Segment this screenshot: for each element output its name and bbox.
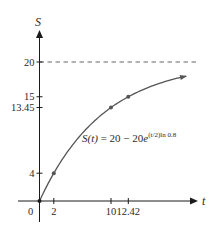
x-tick-label: 0 (28, 206, 33, 217)
equation-rhs: = 20 − 20 (98, 132, 144, 144)
y-tick-label: 15 (24, 91, 35, 102)
equation-lhs: S(t) (82, 132, 98, 145)
y-tick-label: 4 (29, 168, 35, 179)
y-axis-arrow-icon (36, 30, 43, 38)
y-tick-label: 13.45 (11, 102, 35, 113)
data-point (38, 199, 42, 203)
x-axis-arrow-icon (190, 198, 198, 205)
data-point (52, 171, 56, 175)
x-tick-label: 12.42 (116, 206, 140, 217)
x-tick-label: 10 (106, 206, 117, 217)
chart: S t 021012.42413.451520 S(t) = 20 − 20e(… (0, 0, 218, 231)
data-point (126, 95, 130, 99)
equation-exponent: (t/2)ln 0.8 (148, 131, 176, 139)
data-point (109, 106, 113, 110)
equation-label: S(t) = 20 − 20e(t/2)ln 0.8 (82, 131, 177, 145)
y-axis-label: S (35, 15, 41, 29)
y-tick-label: 20 (24, 57, 35, 68)
x-tick-label: 2 (51, 206, 56, 217)
x-axis-label: t (202, 194, 206, 208)
